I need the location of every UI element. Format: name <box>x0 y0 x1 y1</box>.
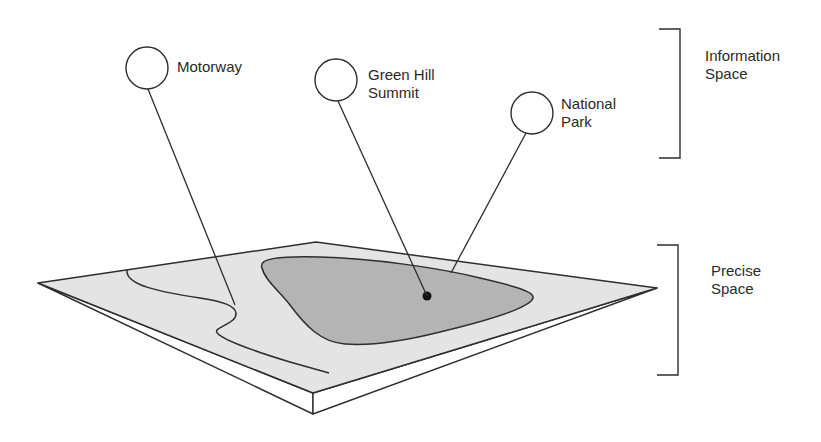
green-hill-summit-node <box>315 59 357 101</box>
park-connector <box>451 133 526 273</box>
green-hill-summit-label: Green Hill Summit <box>368 66 435 102</box>
precise-space-bracket <box>657 245 678 375</box>
national-park-node <box>511 92 553 134</box>
precise-space-label: Precise Space <box>711 262 761 298</box>
information-space-label: Information Space <box>705 47 780 83</box>
motorway-node <box>126 47 168 89</box>
national-park-label: National Park <box>561 95 616 131</box>
information-space-bracket <box>659 29 680 158</box>
motorway-label: Motorway <box>177 58 242 76</box>
